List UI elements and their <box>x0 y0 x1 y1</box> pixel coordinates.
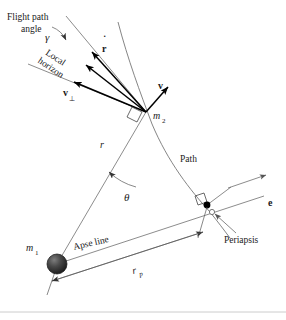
flight-path-angle-label-line2: angle <box>21 24 42 34</box>
r-label: r <box>100 139 104 150</box>
gamma-label: γ <box>45 31 50 43</box>
figure-background <box>0 0 286 320</box>
v-radial-subscript: r <box>164 87 167 95</box>
central-body-m1 <box>47 254 67 274</box>
v-perp-label-glyph: v <box>63 87 68 98</box>
r-dot-label: r ˙ <box>102 34 107 54</box>
m2-subscript: 2 <box>162 117 166 125</box>
m1-subscript: 1 <box>35 249 39 257</box>
v-radial-label-glyph: v <box>158 80 163 91</box>
v-perp-subscript: ⊥ <box>69 95 75 103</box>
m2-label-glyph: m <box>153 110 160 121</box>
e-vector-label: e <box>268 197 273 208</box>
flight-path-angle-label-line1: Flight path <box>7 12 49 22</box>
m1-label-glyph: m <box>26 242 33 253</box>
theta-label: θ <box>124 191 130 203</box>
r-dot-accent-glyph: ˙ <box>103 34 106 45</box>
orbit-diagram-svg: Flight path angle γ Local horizon r ˙ v … <box>0 0 286 320</box>
path-label: Path <box>180 154 197 164</box>
periapsis-label: Periapsis <box>224 235 259 245</box>
periapsis-marker-open-circle <box>209 209 214 214</box>
orbit-diagram-figure: Flight path angle γ Local horizon r ˙ v … <box>0 0 286 320</box>
